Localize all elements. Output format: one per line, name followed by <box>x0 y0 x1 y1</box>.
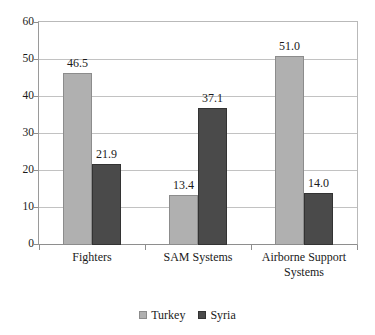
legend-swatch-icon <box>198 311 206 319</box>
legend-label: Turkey <box>151 309 185 321</box>
x-axis-category-label: SAM Systems <box>145 250 251 265</box>
bar-value-label: 46.5 <box>67 57 88 69</box>
bar-value-label: 14.0 <box>308 177 329 189</box>
legend-swatch-icon <box>139 311 147 319</box>
y-axis-ticks <box>0 21 38 245</box>
bar-syria-0 <box>92 164 121 245</box>
x-axis-category-label: Airborne SupportSystems <box>251 250 357 280</box>
bars-layer: 46.521.913.437.151.014.0 <box>39 22 357 245</box>
bar-value-label: 13.4 <box>173 179 194 191</box>
bar-value-label: 51.0 <box>279 40 300 52</box>
bar-chart: 0102030405060 46.521.913.437.151.014.0 F… <box>0 0 375 335</box>
bar-value-label: 37.1 <box>202 92 223 104</box>
bar-turkey-2 <box>275 56 304 245</box>
x-axis-labels: FightersSAM SystemsAirborne SupportSyste… <box>38 250 358 296</box>
bar-value-label: 21.9 <box>96 148 117 160</box>
legend-item-syria[interactable]: Syria <box>198 309 235 321</box>
legend-label: Syria <box>210 309 235 321</box>
x-axis-category-label: Fighters <box>39 250 145 265</box>
legend-item-turkey[interactable]: Turkey <box>139 309 185 321</box>
bar-syria-1 <box>198 108 227 245</box>
bar-turkey-0 <box>63 73 92 245</box>
bar-syria-2 <box>304 193 333 245</box>
bar-turkey-1 <box>169 195 198 245</box>
legend: TurkeySyria <box>0 309 375 321</box>
